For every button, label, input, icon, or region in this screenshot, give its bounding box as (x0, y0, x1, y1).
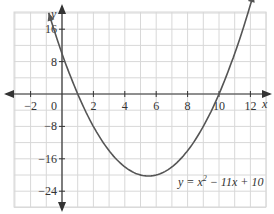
x-tick-label: 8 (185, 99, 191, 113)
equation-prefix: y = x (177, 175, 203, 189)
y-axis-up-arrow-icon (58, 4, 66, 14)
x-tick-label: 12 (244, 99, 256, 113)
x-tick-label: 4 (122, 99, 128, 113)
x-tick-label: −2 (24, 99, 37, 113)
y-tick-label: −8 (44, 119, 57, 133)
y-tick-label: 8 (51, 55, 57, 69)
y-tick-label: −16 (38, 152, 57, 166)
parabola-chart: −2024681012168−8−16−24 x y y = x2 − 11x … (0, 0, 274, 214)
equation-suffix: − 11x + 10 (207, 175, 264, 189)
x-tick-label: 2 (90, 99, 96, 113)
equation-label: y = x2 − 11x + 10 (177, 174, 263, 189)
parabola-curve (49, 0, 254, 176)
x-axis-left-arrow-icon (4, 90, 14, 98)
x-tick-label: 10 (213, 99, 225, 113)
x-tick-label: 6 (153, 99, 159, 113)
x-axis-label: x (261, 97, 268, 111)
y-tick-label: −24 (38, 184, 57, 198)
x-tick-label: 0 (51, 99, 57, 113)
